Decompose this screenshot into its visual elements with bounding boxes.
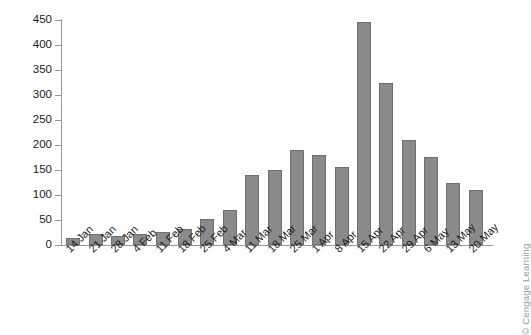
y-axis-label: 300 bbox=[4, 89, 52, 101]
y-axis-tick bbox=[55, 245, 61, 246]
y-axis-tick bbox=[55, 220, 61, 221]
bar bbox=[357, 22, 371, 246]
y-axis-tick bbox=[55, 20, 61, 21]
y-axis-label: 400 bbox=[4, 39, 52, 51]
x-axis: 14 Jan21 Jan28 Jan4 Feb11 Feb18 Feb25 Fe… bbox=[62, 247, 487, 302]
y-axis-label: 150 bbox=[4, 164, 52, 176]
top-crop-artifact bbox=[60, 0, 240, 9]
y-axis-tick bbox=[55, 170, 61, 171]
y-axis-tick bbox=[55, 120, 61, 121]
bar bbox=[379, 83, 393, 246]
y-axis-tick bbox=[55, 45, 61, 46]
y-axis-label: 50 bbox=[4, 214, 52, 226]
y-axis-label: 100 bbox=[4, 189, 52, 201]
y-axis-label: 0 bbox=[4, 239, 52, 251]
y-axis-tick bbox=[55, 70, 61, 71]
credit-text: © Cengage Learning bbox=[520, 243, 531, 334]
y-axis-tick bbox=[55, 145, 61, 146]
y-axis-tick bbox=[55, 195, 61, 196]
y-axis-tick bbox=[55, 95, 61, 96]
y-axis-label: 200 bbox=[4, 139, 52, 151]
y-axis-label: 350 bbox=[4, 64, 52, 76]
y-axis-label: 450 bbox=[4, 14, 52, 26]
bar-series bbox=[62, 20, 487, 245]
y-axis-label: 250 bbox=[4, 114, 52, 126]
